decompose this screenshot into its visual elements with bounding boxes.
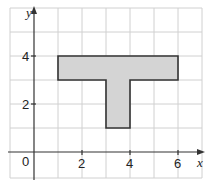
y-axis-label: y (24, 5, 32, 20)
x-tick-label-6: 6 (174, 156, 181, 171)
t-shape (58, 56, 178, 128)
y-axis-arrow-icon (31, 6, 37, 14)
y-tick-label-2: 2 (22, 97, 29, 112)
x-tick-label-4: 4 (126, 156, 133, 171)
origin-label: 0 (22, 154, 29, 169)
coordinate-grid-diagram: y x 0 2 4 6 4 2 (0, 0, 213, 186)
y-tick-label-4: 4 (22, 49, 29, 64)
axes (8, 10, 200, 180)
x-axis-label: x (196, 155, 203, 170)
x-tick-label-2: 2 (78, 156, 85, 171)
